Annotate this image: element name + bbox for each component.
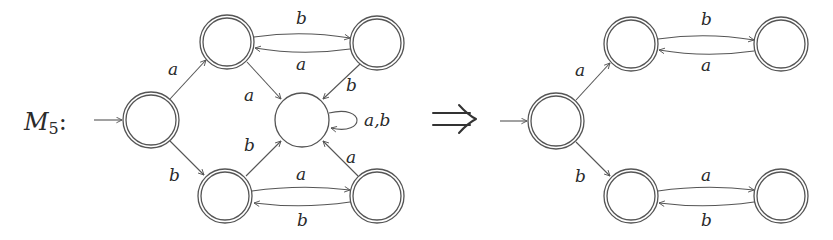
left-label-qa-qab: b [296,8,307,28]
left-label-qab-dead: b [346,75,357,95]
right-edge-qa-qab [658,36,754,40]
right-state-lower-left [604,169,658,223]
right-state-upper-left [604,17,658,71]
left-state-sink [275,93,329,147]
left-state-lower-right [350,169,404,223]
right-edge-qb-qba [658,187,754,191]
left-label-qb-dead: b [244,135,255,155]
left-label-qab-qa: a [296,54,306,74]
right-state-lower-right [754,169,808,223]
left-label-dead-loop: a,b [364,110,390,130]
implies-arrow-icon [433,105,476,133]
right-label-qba-qb: b [701,210,712,230]
right-label-qab-qa: a [701,55,711,75]
left-automaton: a b b a a b a,b b a a b [94,8,404,230]
left-state-start [123,92,179,148]
diagram-svg: M5: [0,0,833,240]
right-label-qb-qba: a [701,165,711,185]
right-edge-qba-qb [659,202,754,206]
right-state-start [528,93,584,149]
left-state-upper-left [200,15,254,69]
right-label-q0-qb: b [575,166,586,186]
left-edge-qa-qab [254,34,350,38]
right-label-qa-qab: b [701,9,712,29]
left-label-qa-dead: a [244,85,254,105]
right-automaton: a b b a a b [500,9,808,230]
left-label-q0-qb: b [169,165,180,185]
left-label-qba-qb: b [297,210,308,230]
left-state-upper-right [350,16,404,70]
right-label-q0-qa: a [575,60,585,80]
left-label-qba-dead: a [346,147,356,167]
left-state-lower-left [198,169,252,223]
machine-title: M5: [23,108,67,138]
right-state-upper-right [754,17,808,71]
left-edge-qb-qba [252,187,350,191]
right-edge-qab-qa [659,50,754,54]
left-label-qb-qba: a [296,164,306,184]
left-edge-qba-qb [254,202,350,206]
automaton-minimization-diagram: M5: [0,0,833,240]
left-edge-qab-qa [255,48,350,52]
left-edge-dead-loop [329,111,357,129]
left-label-q0-qa: a [168,59,178,79]
